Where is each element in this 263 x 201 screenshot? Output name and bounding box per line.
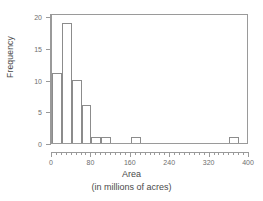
x-axis: 080160240320400	[51, 152, 248, 160]
plot-baseline	[51, 143, 248, 144]
x-axis-tick-minor	[218, 152, 219, 155]
y-axis-tick-label: 15	[34, 45, 42, 52]
x-axis-tick-minor	[174, 152, 175, 155]
plot-area	[52, 15, 247, 143]
x-axis-tick-minor	[95, 152, 96, 155]
y-axis: 05101520	[44, 14, 51, 144]
x-axis-tick-major	[51, 152, 52, 157]
x-axis-tick-label: 400	[242, 159, 254, 167]
x-axis-tick-minor	[61, 152, 62, 155]
x-axis-tick-minor	[85, 152, 86, 155]
x-axis-tick-minor	[243, 152, 244, 155]
x-axis-tick-minor	[184, 152, 185, 155]
x-axis-tick-minor	[179, 152, 180, 155]
x-axis-tick-minor	[56, 152, 57, 155]
histogram-bar	[82, 105, 92, 143]
x-axis-tick-minor	[135, 152, 136, 155]
histogram-figure: 05101520 Frequency 080160240320400 Area …	[0, 0, 263, 201]
x-axis-tick-major	[209, 152, 210, 157]
x-axis-tick-minor	[199, 152, 200, 155]
x-axis-tick-minor	[100, 152, 101, 155]
x-axis-tick-minor	[150, 152, 151, 155]
x-axis-tick-minor	[110, 152, 111, 155]
histogram-bar	[52, 73, 62, 143]
x-axis-tick-minor	[120, 152, 121, 155]
histogram-bar	[72, 80, 82, 143]
plot-frame	[51, 14, 248, 144]
x-axis-tick-label: 160	[124, 159, 136, 167]
x-axis-tick-minor	[115, 152, 116, 155]
x-axis-tick-label: 320	[203, 159, 215, 167]
x-axis-tick-minor	[233, 152, 234, 155]
y-axis-title: Frequency	[5, 22, 15, 92]
y-axis-tick	[46, 144, 51, 145]
x-axis-tick-minor	[214, 152, 215, 155]
x-axis-tick-major	[90, 152, 91, 157]
x-axis-tick-minor	[125, 152, 126, 155]
x-axis-tick-major	[130, 152, 131, 157]
x-axis-subtitle: (in millions of acres)	[0, 182, 263, 192]
x-axis-tick-minor	[71, 152, 72, 155]
x-axis-tick-minor	[145, 152, 146, 155]
x-axis-tick-minor	[223, 152, 224, 155]
x-axis-title: Area	[0, 169, 263, 179]
y-axis-tick-label: 20	[34, 14, 42, 21]
x-axis-tick-minor	[66, 152, 67, 155]
x-axis-tick-label: 80	[86, 159, 94, 167]
x-axis-tick-minor	[154, 152, 155, 155]
histogram-bar	[62, 23, 72, 143]
x-axis-tick-minor	[159, 152, 160, 155]
y-axis-tick-label: 0	[38, 141, 42, 148]
x-axis-tick-label: 240	[163, 159, 175, 167]
x-axis-tick-minor	[228, 152, 229, 155]
y-axis-tick-label: 10	[34, 77, 42, 84]
x-axis-tick-minor	[204, 152, 205, 155]
x-axis-tick-major	[169, 152, 170, 157]
x-axis-tick-minor	[189, 152, 190, 155]
y-axis-tick-label: 5	[38, 109, 42, 116]
x-axis-tick-label: 0	[49, 159, 53, 167]
x-axis-tick-minor	[76, 152, 77, 155]
x-axis-tick-minor	[105, 152, 106, 155]
x-axis-tick-minor	[194, 152, 195, 155]
x-axis-tick-major	[248, 152, 249, 157]
x-axis-tick-minor	[164, 152, 165, 155]
x-axis-tick-minor	[238, 152, 239, 155]
x-axis-tick-minor	[81, 152, 82, 155]
x-axis-tick-minor	[140, 152, 141, 155]
